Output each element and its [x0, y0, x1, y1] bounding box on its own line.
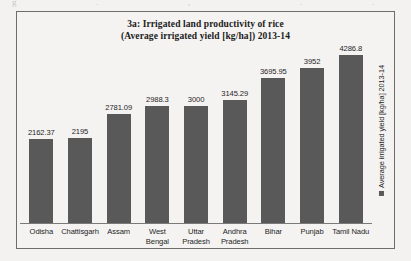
bar-rect[interactable] [107, 114, 131, 224]
category-label-line-1: Odisha [30, 227, 53, 236]
chart-legend: Average irrigated yield [kg/ha] 2013-14 [369, 12, 393, 248]
category-label: Chattisgarh [61, 227, 100, 246]
bar-value-label: 2195 [72, 127, 89, 136]
scanned-page-bleed: g . , . . [0, 0, 411, 9]
bar-item[interactable]: 3000 [177, 30, 216, 224]
chart-title-line-1: 3a: Irrigated land productivity of rice [127, 19, 284, 29]
bar-series: 2162.37 2195 2781.09 2988.3 3000 3145.29 [22, 30, 370, 224]
bar-rect[interactable] [145, 106, 169, 224]
bar-item[interactable]: 2781.09 [99, 30, 138, 224]
category-label-line-2: Pradesh [215, 237, 254, 247]
bar-item[interactable]: 4286.8 [331, 30, 370, 224]
category-label-line-1: Tamil Nadu [332, 227, 369, 236]
bar-item[interactable]: 3695.95 [254, 30, 293, 224]
category-label: West Bengal [138, 227, 177, 246]
plot-area: 2162.37 2195 2781.09 2988.3 3000 3145.29 [22, 30, 370, 224]
bar-rect[interactable] [261, 78, 285, 224]
x-axis-line [20, 223, 372, 224]
bar-rect[interactable] [339, 55, 363, 224]
bar-value-label: 3952 [304, 57, 321, 66]
category-label: Tamil Nadu [331, 227, 370, 246]
category-label: Odisha [22, 227, 61, 246]
category-label-line-1: Punjab [301, 227, 324, 236]
bar-item[interactable]: 3952 [293, 30, 332, 224]
legend-label: Average irrigated yield [kg/ha] 2013-14 [377, 65, 386, 188]
bar-value-label: 3695.95 [260, 67, 287, 76]
bar-value-label: 2781.09 [105, 103, 132, 112]
chart-container: 3a: Irrigated land productivity of rice … [16, 11, 395, 249]
category-label-line-1: Uttar [188, 227, 204, 236]
bar-item[interactable]: 2988.3 [138, 30, 177, 224]
category-label-line-1: Assam [107, 227, 130, 236]
category-label: Punjab [293, 227, 332, 246]
category-label-line-2: Pradesh [177, 237, 216, 247]
bar-item[interactable]: 2162.37 [22, 30, 61, 224]
legend-entry[interactable]: Average irrigated yield [kg/ha] 2013-14 [377, 65, 386, 196]
bar-rect[interactable] [184, 106, 208, 224]
bar-value-label: 4286.8 [339, 44, 362, 53]
category-label-line-1: Bihar [265, 227, 282, 236]
category-label-line-1: Andhra [223, 227, 247, 236]
bar-rect[interactable] [29, 139, 53, 224]
bar-item[interactable]: 3145.29 [215, 30, 254, 224]
legend-swatch-icon [379, 190, 384, 195]
bar-rect[interactable] [68, 138, 92, 224]
bar-item[interactable]: 2195 [61, 30, 100, 224]
category-label: Andhra Pradesh [215, 227, 254, 246]
x-axis-category-labels: Odisha Chattisgarh Assam West Bengal Utt… [22, 227, 370, 246]
bar-value-label: 3145.29 [221, 89, 248, 98]
category-label: Assam [99, 227, 138, 246]
bar-value-label: 2162.37 [28, 128, 55, 137]
bar-rect[interactable] [223, 100, 247, 224]
bar-rect[interactable] [300, 68, 324, 224]
category-label: Uttar Pradesh [177, 227, 216, 246]
bar-value-label: 3000 [188, 95, 205, 104]
category-label: Bihar [254, 227, 293, 246]
bar-value-label: 2988.3 [146, 95, 169, 104]
category-label-line-1: Chattisgarh [61, 227, 99, 236]
category-label-line-2: Bengal [138, 237, 177, 247]
category-label-line-1: West [149, 227, 166, 236]
